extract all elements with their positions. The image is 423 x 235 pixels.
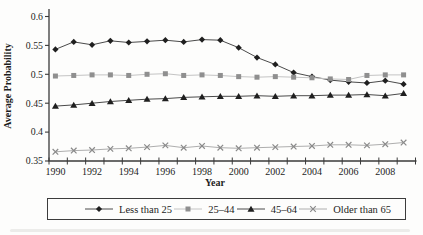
square-marker-icon	[218, 73, 223, 78]
legend-marker-diamond-icon	[84, 204, 114, 214]
diamond-marker-icon	[364, 80, 370, 86]
line-chart: Average Probability Year 0.60.550.50.450…	[0, 0, 423, 196]
square-marker-icon	[254, 75, 259, 80]
x-tick-label: 2000	[229, 166, 249, 177]
legend-item: Older than 65	[298, 204, 391, 215]
x-tick-label: 1996	[155, 166, 175, 177]
y-tick-label: 0.35	[26, 155, 43, 166]
axes-group: 0.60.550.50.450.40.351990199219941996199…	[26, 9, 417, 177]
square-marker-icon	[53, 74, 58, 79]
x-tick-label: 1998	[192, 166, 212, 177]
x-tick-label: 1990	[45, 166, 65, 177]
diamond-marker-icon	[52, 46, 58, 52]
x-tick-label: 1992	[82, 166, 102, 177]
legend-item: Less than 25	[84, 204, 172, 215]
x-tick-label: 2008	[375, 166, 395, 177]
x-tick-label: 2006	[339, 166, 359, 177]
square-marker-icon	[71, 73, 76, 78]
x-axis-title: Year	[205, 177, 226, 188]
x-tick-label: 1994	[119, 166, 139, 177]
legend-label: 45–64	[271, 204, 297, 215]
diamond-marker-icon	[89, 42, 95, 48]
legend: Less than 2525–4445–64Older than 65	[47, 198, 406, 220]
square-marker-icon	[200, 72, 205, 77]
diamond-marker-icon	[382, 78, 388, 84]
square-marker-icon	[145, 72, 150, 77]
x-tick-label: 2004	[302, 166, 322, 177]
y-axis-title: Average Probability	[2, 43, 13, 128]
series-group	[52, 37, 407, 155]
chart-canvas: Average Probability Year 0.60.550.50.450…	[0, 0, 423, 235]
legend-label: Less than 25	[119, 204, 172, 215]
diamond-marker-icon	[71, 39, 77, 45]
diamond-marker-icon	[96, 206, 102, 212]
triangle-marker-icon	[400, 90, 407, 96]
diamond-marker-icon	[254, 54, 260, 60]
diamond-marker-icon	[107, 38, 113, 44]
legend-item: 25–44	[173, 204, 234, 215]
series-line	[55, 74, 403, 80]
square-marker-icon	[186, 207, 191, 212]
series-line	[55, 40, 403, 85]
legend-item: 45–64	[236, 204, 297, 215]
legend-label: Older than 65	[333, 204, 391, 215]
square-marker-icon	[108, 72, 113, 77]
square-marker-icon	[346, 77, 351, 82]
square-marker-icon	[90, 72, 95, 77]
series-square	[53, 71, 406, 82]
legend-marker-square-icon	[173, 204, 203, 214]
diamond-marker-icon	[144, 38, 150, 44]
y-tick-label: 0.5	[31, 69, 43, 80]
square-marker-icon	[401, 72, 406, 77]
square-marker-icon	[383, 72, 388, 77]
legend-marker-triangle-icon	[236, 204, 266, 214]
y-tick-label: 0.55	[26, 40, 43, 51]
diamond-marker-icon	[162, 37, 168, 43]
diamond-marker-icon	[400, 81, 406, 87]
diamond-marker-icon	[236, 45, 242, 51]
y-tick-label: 0.4	[31, 126, 43, 137]
y-tick-label: 0.6	[31, 11, 43, 22]
diamond-marker-icon	[272, 61, 278, 67]
square-marker-icon	[181, 73, 186, 78]
square-marker-icon	[236, 74, 241, 79]
legend-label: 25–44	[208, 204, 234, 215]
scan-artifact	[10, 229, 410, 232]
diamond-marker-icon	[181, 39, 187, 45]
square-marker-icon	[309, 75, 314, 80]
diamond-marker-icon	[217, 37, 223, 43]
diamond-marker-icon	[126, 39, 132, 45]
y-tick-label: 0.45	[26, 98, 43, 109]
square-marker-icon	[328, 76, 333, 81]
square-marker-icon	[291, 75, 296, 80]
series-triangle	[52, 90, 407, 109]
x-tick-label: 2002	[265, 166, 285, 177]
legend-marker-x-icon	[298, 204, 328, 214]
square-marker-icon	[273, 74, 278, 79]
square-marker-icon	[163, 71, 168, 76]
series-diamond	[52, 37, 406, 88]
series-x	[53, 140, 407, 155]
square-marker-icon	[126, 73, 131, 78]
diamond-marker-icon	[199, 37, 205, 43]
series-line	[55, 93, 403, 106]
square-marker-icon	[364, 73, 369, 78]
